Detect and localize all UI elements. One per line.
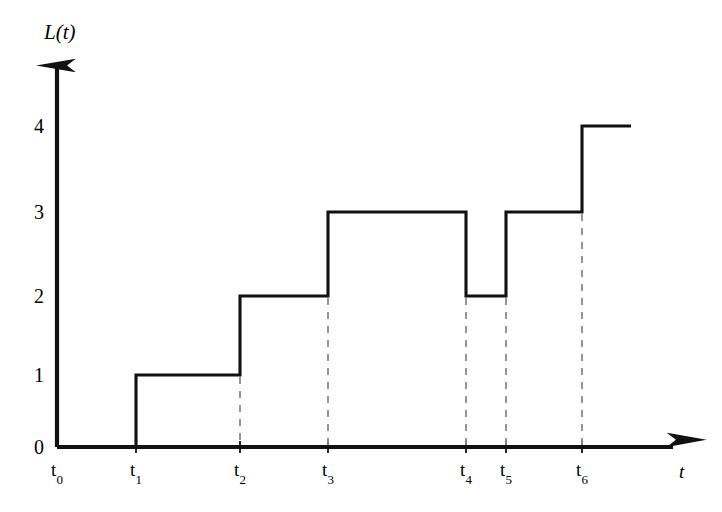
x-tick-sub-t0: 0: [56, 472, 63, 487]
y-axis-title: L(t): [44, 22, 76, 43]
y-tick-label-0: 0: [22, 437, 44, 457]
step-function-chart: L(t) t 0 1 2 3 4 t0 t1 t2 t3 t4 t5 t6: [0, 0, 722, 512]
x-tick-label-t2: t2: [220, 460, 260, 483]
x-tick-sub-t5: 5: [505, 472, 512, 487]
y-tick-label-2: 2: [22, 286, 44, 306]
y-tick-label-4: 4: [22, 116, 44, 136]
x-tick-label-t0: t0: [37, 460, 77, 483]
y-tick-label-1: 1: [22, 365, 44, 385]
droplines-group: [240, 214, 582, 446]
x-tick-label-t4: t4: [446, 460, 486, 483]
chart-plot-area: [0, 0, 722, 512]
x-tick-sub-t4: 4: [465, 472, 472, 487]
y-tick-label-3: 3: [22, 202, 44, 222]
step-function-curve: [57, 126, 631, 447]
x-tick-sub-t3: 3: [327, 472, 334, 487]
x-tick-label-t5: t5: [486, 460, 526, 483]
x-tick-sub-t1: 1: [135, 472, 142, 487]
x-axis-title: t: [679, 462, 684, 481]
x-tick-sub-t6: 6: [581, 472, 588, 487]
x-tick-label-t3: t3: [308, 460, 348, 483]
x-tick-label-t1: t1: [116, 460, 156, 483]
x-tick-label-t6: t6: [562, 460, 602, 483]
x-tick-sub-t2: 2: [239, 472, 246, 487]
